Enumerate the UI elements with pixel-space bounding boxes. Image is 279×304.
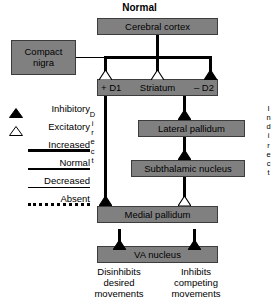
line-nigra-to-striatum [76,57,108,58]
legend-row-increased: Increased [4,135,92,153]
legend-row-inhibitory: Inhibitory [4,99,92,117]
legend: Inhibitory Excitatory Increased Normal D… [4,99,92,207]
box-medial-pallidum[interactable]: Medial pallidum [97,206,218,223]
excitatory-arrow-stn-to-medial-pallidum [178,196,191,206]
inhibitory-arrow-lateral-pallidum-to-stn [178,150,191,160]
outcome-caption-left: Disinhibits desired movements [78,266,160,300]
outcome-right-line1: Inhibits [155,266,237,277]
outcome-right-line3: movements [155,288,237,299]
outcome-left-line2: desired [78,277,160,288]
striatum-d1-receptor-label: + D1 [101,83,121,93]
line-cortex-trunk [156,34,159,58]
outcome-left-line3: movements [78,288,160,299]
box-lateral-pallidum[interactable]: Lateral pallidum [138,120,245,137]
inhibitory-arrow-cortex-to-d2 [204,70,217,80]
outcome-left-line1: Disinhibits [78,266,160,277]
legend-row-normal: Normal [4,153,92,171]
basal-ganglia-circuit-diagram: Normal [0,0,279,304]
inhibitory-arrow-striatum-to-lateral-pallidum [178,110,191,120]
legend-row-excitatory: Excitatory [4,117,92,135]
box-striatum[interactable]: + D1 Striatum – D2 [97,79,218,96]
box-cerebral-cortex-label: Cerebral cortex [125,22,190,32]
outcome-right-line2: competing [155,277,237,288]
pathway-indirect-char-1: n [264,113,273,122]
inhibitory-arrow-direct-to-medial-pallidum [99,196,112,206]
pathway-indirect-char-6: c [264,159,273,168]
pathway-indirect-char-0: I [264,104,273,113]
pathway-indirect-char-3: i [264,131,273,140]
inhibitory-arrow-medial-pallidum-to-va-right [188,240,201,250]
excitatory-arrow-cortex-to-striatum [151,70,164,80]
pathway-indirect-char-4: r [264,141,273,150]
outcome-caption-right: Inhibits competing movements [155,266,237,300]
legend-label-decreased: Decreased [44,175,90,186]
pathway-indirect-char-7: t [264,168,273,177]
legend-row-decreased: Decreased [4,171,92,189]
legend-rule-normal [28,168,90,170]
box-striatum-label: Striatum [140,83,175,93]
excitatory-arrow-cortex-to-d1 [99,70,112,80]
box-subthalamic-nucleus-label: Subthalamic nucleus [144,164,232,174]
filled-triangle-icon [9,104,23,114]
striatum-d2-receptor-label: – D2 [194,83,214,93]
open-triangle-icon [9,122,23,132]
diagram-title: Normal [0,2,279,13]
box-cerebral-cortex[interactable]: Cerebral cortex [97,18,218,35]
box-striatum-inner: + D1 Striatum – D2 [98,83,217,93]
line-direct-pathway [104,95,107,209]
legend-rule-absent [28,203,90,206]
box-lateral-pallidum-label: Lateral pallidum [158,124,225,134]
legend-row-absent: Absent [4,189,92,207]
box-compact-nigra-label-line1: Compact [24,47,62,58]
legend-rule-decreased [28,187,90,188]
legend-label-increased: Increased [48,139,90,150]
box-compact-nigra-label-line2: nigra [33,58,54,69]
box-subthalamic-nucleus[interactable]: Subthalamic nucleus [131,160,245,177]
legend-label-absent: Absent [60,193,90,204]
legend-label-excitatory: Excitatory [48,121,90,132]
pathway-indirect-char-5: e [264,150,273,159]
box-medial-pallidum-label: Medial pallidum [124,210,190,220]
legend-rule-increased [28,149,90,152]
legend-label-inhibitory: Inhibitory [51,103,90,114]
pathway-indirect-char-2: d [264,122,273,131]
legend-label-normal: Normal [59,157,90,168]
box-compact-nigra[interactable]: Compact nigra [11,40,76,75]
inhibitory-arrow-medial-pallidum-to-va-left [113,240,126,250]
pathway-label-indirect: I n d i r e c t [264,104,273,177]
box-va-nucleus-label: VA nucleus [134,250,181,260]
